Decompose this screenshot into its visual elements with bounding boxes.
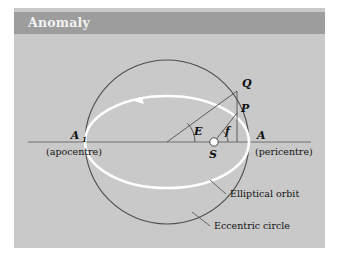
diagram-area: A 1 (apocentre) A (pericentre) Q P S E f… [14, 34, 325, 248]
label-apocentre-caption: (apocentre) [46, 146, 102, 157]
label-angle-E: E [193, 125, 203, 138]
label-A: A [256, 129, 266, 142]
figure-panel: Anomaly [14, 8, 325, 248]
anomaly-diagram: A 1 (apocentre) A (pericentre) Q P S E f… [14, 34, 325, 248]
label-Q: Q [242, 77, 252, 90]
label-A1-subscript: 1 [82, 135, 87, 144]
label-P: P [240, 102, 250, 115]
elliptical-orbit-leader-line [210, 180, 226, 194]
page-title: Anomaly [28, 15, 90, 30]
callout-elliptical-orbit: Elliptical orbit [230, 188, 299, 199]
figure-root: Anomaly [0, 0, 339, 262]
label-S: S [209, 148, 217, 161]
label-A1: A [70, 129, 80, 142]
figure-title-bar: Anomaly [14, 12, 325, 34]
label-angle-f: f [224, 125, 232, 138]
callout-eccentric-circle: Eccentric circle [214, 220, 290, 231]
label-pericentre-caption: (pericentre) [255, 146, 313, 157]
focus-marker-S [210, 138, 218, 146]
